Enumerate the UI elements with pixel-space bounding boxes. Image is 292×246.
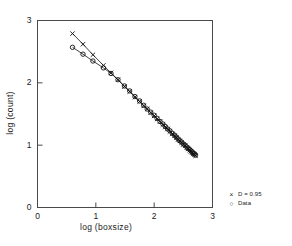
legend-entry: ×D = 0.95 xyxy=(228,190,262,199)
data-series-group xyxy=(70,31,197,158)
axes-frame xyxy=(38,21,213,208)
cross-marker-icon: × xyxy=(228,190,235,199)
x-tick-label: 3 xyxy=(203,211,223,221)
x-axis-ticks xyxy=(96,203,154,208)
legend-label: Data xyxy=(238,199,251,208)
legend-label: D = 0.95 xyxy=(238,190,262,199)
x-axis-label: log (boxsize) xyxy=(0,222,212,232)
legend-entry: ○Data xyxy=(228,199,262,208)
y-tick-label: 1 xyxy=(16,140,32,150)
x-tick-label: 2 xyxy=(144,211,164,221)
data-point-x xyxy=(70,31,74,35)
x-tick-label: 0 xyxy=(28,211,48,221)
y-tick-label: 2 xyxy=(16,77,32,87)
x-tick-label: 1 xyxy=(86,211,106,221)
data-point-x xyxy=(91,53,95,57)
data-point-x xyxy=(81,42,85,46)
chart-legend: ×D = 0.95○Data xyxy=(228,190,262,208)
y-tick-label: 0 xyxy=(16,202,32,212)
circle-marker-icon: ○ xyxy=(228,199,235,208)
y-axis-label: log (count) xyxy=(5,67,15,159)
y-tick-label: 3 xyxy=(16,15,32,25)
y-axis-ticks xyxy=(38,83,43,145)
plot-area xyxy=(0,0,292,246)
box-counting-chart: log (boxsize) log (count) 0123 0123 ×D =… xyxy=(0,0,292,246)
